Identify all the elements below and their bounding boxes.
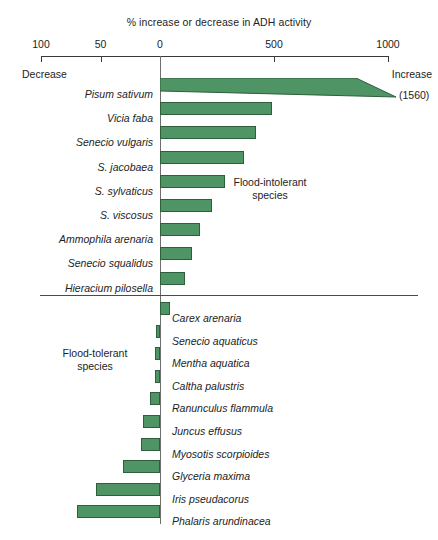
- bar-row: Senecio aquaticus: [0, 325, 438, 338]
- bar: [155, 370, 160, 383]
- bar-row: Phalaris arundinacea: [0, 505, 438, 518]
- bar: [160, 247, 192, 260]
- bar-broken-offscale: [160, 78, 396, 98]
- bar-row: Glyceria maxima: [0, 460, 438, 473]
- bar: [160, 302, 170, 315]
- species-label: Vicia faba: [107, 112, 153, 124]
- species-label: Senecio vulgaris: [76, 136, 153, 148]
- bar-row: Juncus effusus: [0, 415, 438, 428]
- species-label: Ammophila arenaria: [59, 233, 153, 245]
- species-label: Juncus effusus: [172, 425, 242, 437]
- species-label: Hieracium pilosella: [65, 282, 153, 294]
- bar: [156, 325, 160, 338]
- x-axis-tick-mark: [388, 56, 389, 62]
- bar-row: Caltha palustris: [0, 370, 438, 383]
- species-label: Pisum sativum: [85, 88, 153, 100]
- bar-row: S. viscosus: [0, 199, 438, 212]
- group-divider: [40, 295, 418, 296]
- bar: [160, 175, 225, 188]
- x-axis-tick-label: 1000: [376, 38, 399, 50]
- adh-activity-bar-chart: % increase or decrease in ADH activity 1…: [0, 0, 438, 540]
- species-label: S. viscosus: [100, 209, 153, 221]
- bar: [123, 460, 160, 473]
- species-label: Myosotis scorpioides: [172, 448, 269, 460]
- bar-row: Myosotis scorpioides: [0, 438, 438, 451]
- bar-row: Carex arenaria: [0, 302, 438, 315]
- bar: [160, 102, 272, 115]
- bar: [150, 392, 160, 405]
- bar: [160, 151, 244, 164]
- species-label: S. jacobaea: [98, 161, 153, 173]
- species-label: Senecio aquaticus: [172, 335, 258, 347]
- x-axis-tick-label: 500: [265, 38, 283, 50]
- bar-row: Ammophila arenaria: [0, 223, 438, 236]
- species-label: Senecio squalidus: [68, 257, 153, 269]
- bar-row: S. jacobaea: [0, 151, 438, 164]
- bar: [141, 438, 160, 451]
- species-label: Glyceria maxima: [172, 470, 250, 482]
- x-axis-line: [41, 56, 388, 57]
- species-label: Caltha palustris: [172, 380, 244, 392]
- x-axis-tick-mark: [41, 56, 42, 62]
- bar-row: Hieracium pilosella: [0, 272, 438, 285]
- bar-row: Senecio vulgaris: [0, 126, 438, 139]
- bar: [77, 505, 160, 518]
- species-label: Mentha aquatica: [172, 357, 250, 369]
- bar-row: Vicia faba: [0, 102, 438, 115]
- bar: [155, 347, 160, 360]
- x-axis-tick-mark: [274, 56, 275, 62]
- bar: [160, 126, 256, 139]
- bar: [143, 415, 160, 428]
- bar-row: Iris pseudacorus: [0, 483, 438, 496]
- species-label: Iris pseudacorus: [172, 493, 249, 505]
- bar-value-annotation: (1560): [399, 89, 429, 101]
- bar: [96, 483, 160, 496]
- species-label: S. sylvaticus: [95, 185, 153, 197]
- species-label: Phalaris arundinacea: [172, 515, 271, 527]
- species-label: Ranunculus flammula: [172, 402, 273, 414]
- x-axis-tick-label: 100: [32, 38, 50, 50]
- bar-row: Senecio squalidus: [0, 247, 438, 260]
- species-label: Carex arenaria: [172, 312, 241, 324]
- bar-row: Ranunculus flammula: [0, 392, 438, 405]
- x-axis-tick-mark: [101, 56, 102, 62]
- x-axis-tick-label: 50: [95, 38, 107, 50]
- bar: [160, 223, 200, 236]
- bar-row: S. sylvaticus: [0, 175, 438, 188]
- x-axis-tick-label: 0: [157, 38, 163, 50]
- bar: [160, 199, 212, 212]
- bar-row: (1560)Pisum sativum: [0, 78, 438, 91]
- bar: [160, 272, 185, 285]
- bar-row: Mentha aquatica: [0, 347, 438, 360]
